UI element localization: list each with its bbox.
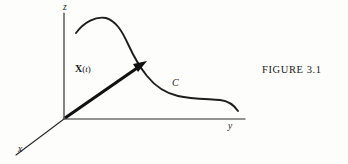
curve-label: C	[172, 78, 179, 88]
x-axis-label: x	[18, 145, 22, 155]
space-curve	[76, 18, 238, 111]
figure-caption: FIGURE 3.1	[262, 64, 322, 75]
y-axis-label: y	[228, 122, 232, 132]
vector-label: X(t)	[75, 64, 91, 74]
z-axis-label: z	[63, 3, 67, 13]
vector-close-paren: )	[88, 64, 91, 74]
figure-panel: z y x C X(t) FIGURE 3.1	[0, 0, 348, 164]
x-axis-line	[16, 119, 64, 155]
